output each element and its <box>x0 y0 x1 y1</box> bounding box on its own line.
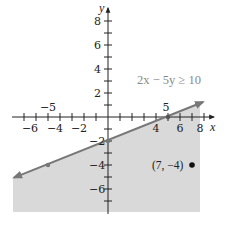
inequality-graph: y x 8 6 4 2 −2 −4 −6 −6 −4 −2 4 6 8 −5 5… <box>0 0 226 225</box>
y-tick-neg4: −4 <box>89 159 105 172</box>
line-point-neg5-neg4 <box>46 163 50 167</box>
x-tick-8: 8 <box>197 122 204 135</box>
y-tick-neg2: −2 <box>89 135 105 148</box>
test-point <box>189 162 195 168</box>
inequality-label: 2x − 5y ≥ 10 <box>137 73 201 87</box>
y-tick-8: 8 <box>94 15 101 28</box>
y-tick-4: 4 <box>94 63 101 76</box>
y-tick-6: 6 <box>94 39 101 52</box>
x-tick-6: 6 <box>177 122 184 135</box>
x-tick-neg6: −6 <box>22 122 38 135</box>
x-tick-neg4: −4 <box>47 122 63 135</box>
y-tick-2: 2 <box>94 87 101 100</box>
x-intercept-label: 5 <box>163 101 170 114</box>
test-point-label: (7, −4) <box>152 159 184 172</box>
y-axis-label: y <box>98 1 105 15</box>
x-tick-4: 4 <box>153 122 160 135</box>
x-tick-neg2: −2 <box>71 122 87 135</box>
x-axis-label: x <box>209 120 216 134</box>
line-point-0-neg2 <box>106 139 110 143</box>
line-point-5-0 <box>166 115 170 119</box>
shaded-region <box>13 103 200 212</box>
neg5-label: −5 <box>40 101 56 114</box>
y-tick-neg6: −6 <box>89 183 105 196</box>
